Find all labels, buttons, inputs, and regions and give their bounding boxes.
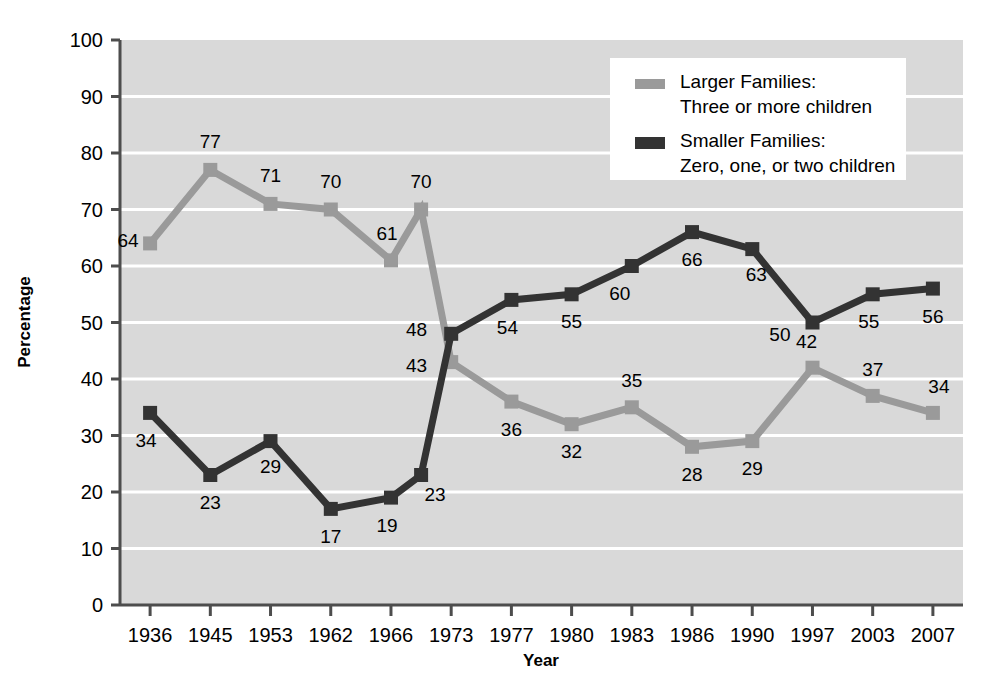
legend-label-larger-families-line2: Three or more children (680, 96, 872, 117)
data-point-label: 32 (561, 441, 582, 462)
legend-label-smaller-families-line2: Zero, one, or two children (680, 155, 895, 176)
data-point-label: 63 (746, 264, 767, 285)
x-tick-label: 1977 (489, 624, 534, 646)
x-tick-label: 1973 (429, 624, 474, 646)
data-point-label: 50 (769, 324, 790, 345)
data-point-marker (745, 242, 759, 256)
data-point-label: 60 (609, 283, 630, 304)
data-point-label: 77 (200, 131, 221, 152)
data-point-marker (264, 197, 278, 211)
data-point-marker (143, 236, 157, 250)
x-tick-label: 1945 (188, 624, 233, 646)
chart-legend: Larger Families: Three or more children … (610, 58, 906, 180)
data-point-label: 36 (501, 419, 522, 440)
data-point-marker (926, 406, 940, 420)
y-tick-label: 10 (81, 538, 103, 560)
x-tick-label: 1983 (610, 624, 655, 646)
line-chart: 0102030405060708090100 19361945195319621… (0, 0, 986, 678)
data-point-marker (384, 491, 398, 505)
data-point-label: 34 (136, 430, 158, 451)
legend-swatch-smaller-families (635, 137, 665, 149)
data-point-marker (264, 434, 278, 448)
data-point-marker (504, 293, 518, 307)
data-point-label: 55 (561, 311, 582, 332)
data-point-label: 29 (742, 458, 763, 479)
data-point-label: 66 (681, 249, 702, 270)
data-point-label: 56 (922, 306, 943, 327)
x-tick-label: 1936 (128, 624, 173, 646)
data-point-marker (685, 225, 699, 239)
data-point-label: 42 (796, 331, 817, 352)
data-point-marker (414, 203, 428, 217)
data-point-marker (203, 468, 217, 482)
y-tick-label: 100 (70, 29, 103, 51)
data-point-label: 71 (260, 165, 281, 186)
data-point-marker (806, 316, 820, 330)
data-point-label: 54 (497, 317, 519, 338)
y-tick-label: 40 (81, 368, 103, 390)
data-point-label: 19 (376, 515, 397, 536)
x-tick-label: 2003 (850, 624, 895, 646)
data-point-marker (866, 389, 880, 403)
x-tick-label: 1980 (549, 624, 594, 646)
x-tick-label: 1990 (730, 624, 775, 646)
x-tick-label: 1962 (309, 624, 354, 646)
data-point-marker (414, 468, 428, 482)
data-point-label: 35 (621, 370, 642, 391)
data-point-label: 43 (406, 355, 427, 376)
data-point-label: 34 (928, 376, 950, 397)
legend-label-larger-families-line1: Larger Families: (680, 71, 816, 92)
chart-container: 0102030405060708090100 19361945195319621… (0, 0, 986, 678)
data-point-label: 64 (118, 230, 140, 251)
y-tick-label: 30 (81, 425, 103, 447)
y-tick-label: 70 (81, 199, 103, 221)
y-tick-label: 0 (92, 594, 103, 616)
data-point-label: 28 (681, 464, 702, 485)
y-tick-label: 20 (81, 481, 103, 503)
data-point-marker (384, 253, 398, 267)
x-tick-label: 1997 (790, 624, 835, 646)
data-point-marker (745, 434, 759, 448)
data-point-marker (625, 259, 639, 273)
data-point-label: 37 (862, 359, 883, 380)
data-point-label: 29 (260, 456, 281, 477)
y-tick-label: 50 (81, 312, 103, 334)
data-point-marker (685, 440, 699, 454)
data-point-marker (565, 287, 579, 301)
data-point-marker (203, 163, 217, 177)
x-axis-title: Year (523, 651, 559, 670)
legend-label-smaller-families-line1: Smaller Families: (680, 130, 826, 151)
x-tick-label: 1986 (670, 624, 715, 646)
data-point-marker (806, 361, 820, 375)
y-tick-label: 60 (81, 255, 103, 277)
x-tick-label: 1953 (248, 624, 293, 646)
data-point-label: 23 (200, 492, 221, 513)
x-tick-label: 1966 (369, 624, 414, 646)
data-point-marker (625, 400, 639, 414)
data-point-marker (565, 417, 579, 431)
data-point-marker (143, 406, 157, 420)
data-point-marker (324, 203, 338, 217)
data-point-label: 55 (858, 311, 879, 332)
x-tick-label: 2007 (911, 624, 956, 646)
data-point-label: 48 (406, 319, 427, 340)
data-point-marker (504, 395, 518, 409)
data-point-marker (866, 287, 880, 301)
data-point-marker (444, 327, 458, 341)
data-point-label: 61 (376, 223, 397, 244)
data-point-marker (324, 502, 338, 516)
data-point-label: 17 (320, 526, 341, 547)
legend-swatch-larger-families (635, 79, 665, 89)
y-tick-label: 80 (81, 142, 103, 164)
data-point-label: 70 (320, 171, 341, 192)
data-point-label: 23 (425, 484, 446, 505)
data-point-marker (926, 282, 940, 296)
data-point-label: 70 (411, 171, 432, 192)
y-tick-label: 90 (81, 86, 103, 108)
y-axis-title: Percentage (15, 276, 34, 368)
